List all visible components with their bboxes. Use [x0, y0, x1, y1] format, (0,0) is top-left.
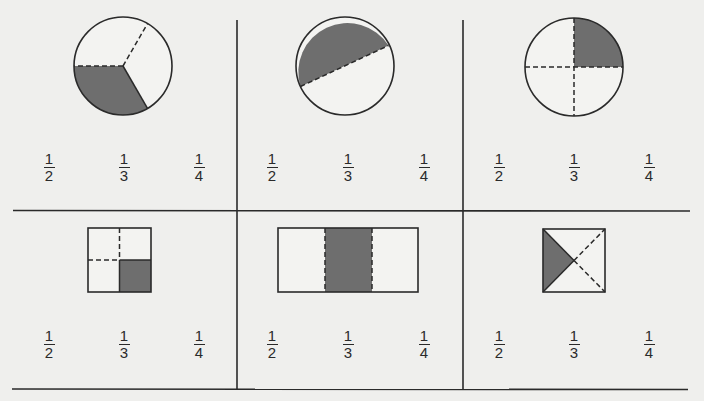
denominator: 3 — [114, 346, 134, 360]
choice-one-half[interactable]: 1 2 — [39, 329, 59, 360]
numerator: 1 — [262, 152, 282, 166]
shaded-quarter — [120, 260, 152, 292]
numerator: 1 — [39, 329, 59, 343]
denominator: 2 — [262, 346, 282, 360]
numerator: 1 — [114, 152, 134, 166]
choice-one-quarter[interactable]: 1 4 — [414, 329, 434, 360]
circle-thirds-figure — [74, 17, 172, 115]
grid-bottom-rule — [12, 389, 688, 390]
numerator: 1 — [338, 329, 358, 343]
numerator: 1 — [189, 152, 209, 166]
numerator: 1 — [414, 329, 434, 343]
denominator: 2 — [39, 346, 59, 360]
denominator: 4 — [189, 346, 209, 360]
choice-one-half[interactable]: 1 2 — [262, 152, 282, 183]
denominator: 4 — [639, 169, 659, 183]
numerator: 1 — [489, 152, 509, 166]
denominator: 2 — [489, 169, 509, 183]
numerator: 1 — [114, 329, 134, 343]
denominator: 3 — [564, 346, 584, 360]
choice-one-third[interactable]: 1 3 — [338, 329, 358, 360]
fraction-worksheet: 1 2 1 3 1 4 1 2 1 3 1 4 1 2 1 3 1 — [0, 0, 704, 401]
choice-one-third[interactable]: 1 3 — [114, 329, 134, 360]
numerator: 1 — [189, 329, 209, 343]
circle-unequal-chord-figure — [296, 17, 394, 115]
numerator: 1 — [414, 152, 434, 166]
choice-one-quarter[interactable]: 1 4 — [639, 329, 659, 360]
choice-one-half[interactable]: 1 2 — [262, 329, 282, 360]
square-diagonal-quarters-figure — [543, 229, 605, 292]
numerator: 1 — [564, 329, 584, 343]
denominator: 3 — [338, 169, 358, 183]
numerator: 1 — [564, 152, 584, 166]
denominator: 4 — [414, 346, 434, 360]
numerator: 1 — [639, 152, 659, 166]
denominator: 4 — [639, 346, 659, 360]
choice-one-third[interactable]: 1 3 — [564, 152, 584, 183]
denominator: 3 — [114, 169, 134, 183]
circle-quarters-figure — [525, 18, 623, 116]
choice-one-half[interactable]: 1 2 — [489, 329, 509, 360]
choice-one-third[interactable]: 1 3 — [564, 329, 584, 360]
denominator: 4 — [414, 169, 434, 183]
choice-one-third[interactable]: 1 3 — [114, 152, 134, 183]
choice-one-third[interactable]: 1 3 — [338, 152, 358, 183]
choice-one-quarter[interactable]: 1 4 — [189, 329, 209, 360]
choice-one-half[interactable]: 1 2 — [39, 152, 59, 183]
choice-one-quarter[interactable]: 1 4 — [414, 152, 434, 183]
denominator: 2 — [262, 169, 282, 183]
numerator: 1 — [489, 329, 509, 343]
denominator: 3 — [338, 346, 358, 360]
choice-one-quarter[interactable]: 1 4 — [639, 152, 659, 183]
grid-horizontal-divider — [13, 211, 690, 212]
numerator: 1 — [338, 152, 358, 166]
numerator: 1 — [639, 329, 659, 343]
numerator: 1 — [39, 152, 59, 166]
denominator: 2 — [39, 169, 59, 183]
denominator: 3 — [564, 169, 584, 183]
numerator: 1 — [262, 329, 282, 343]
rectangle-thirds-figure — [278, 228, 418, 292]
shaded-strip — [325, 228, 372, 292]
denominator: 4 — [189, 169, 209, 183]
choice-one-quarter[interactable]: 1 4 — [189, 152, 209, 183]
square-quarters-figure — [88, 228, 151, 292]
choice-one-half[interactable]: 1 2 — [489, 152, 509, 183]
denominator: 2 — [489, 346, 509, 360]
